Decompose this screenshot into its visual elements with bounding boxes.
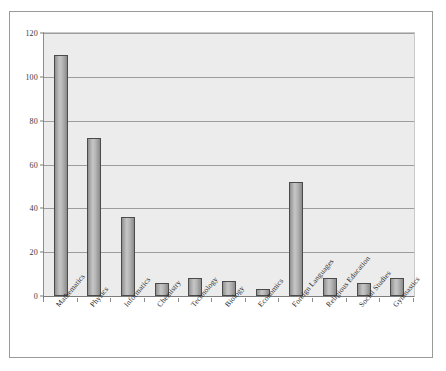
x-tick [77,298,78,302]
x-tick [178,298,179,302]
y-axis-tick-label: 0 [34,292,38,301]
y-axis-tick-label: 100 [25,72,38,81]
y-axis-tick-label: 60 [30,160,38,169]
x-axis-labels: MathematicsPhysicsInformaticsChemistryTe… [43,303,415,359]
bar[interactable] [121,217,135,296]
bar[interactable] [289,182,303,296]
bar-slot [111,33,145,296]
bar-slot [78,33,112,296]
x-tick [278,298,279,302]
x-tick [346,298,347,302]
bars-layer [44,33,414,296]
bar[interactable] [54,55,68,296]
x-tick [312,298,313,302]
figure-frame: 020406080100120 MathematicsPhysicsInform… [9,11,433,358]
y-axis-tick-label: 80 [30,116,38,125]
bar-slot [380,33,414,296]
bar-slot [279,33,313,296]
y-axis-tick-label: 20 [30,248,38,257]
y-axis-tick-label: 120 [25,29,38,38]
bar-slot [212,33,246,296]
y-axis-tick-label: 40 [30,204,38,213]
plot-area: 020406080100120 [43,32,415,297]
bar-slot [44,33,78,296]
bar-slot [145,33,179,296]
x-tick [110,298,111,302]
x-tick [43,298,44,302]
bar-chart: 020406080100120 MathematicsPhysicsInform… [10,12,432,357]
bar-slot [179,33,213,296]
bar[interactable] [87,138,101,296]
x-tick [413,298,414,302]
bar-slot [313,33,347,296]
x-tick [144,298,145,302]
x-tick [379,298,380,302]
bar-slot [246,33,280,296]
x-tick [211,298,212,302]
x-tick [245,298,246,302]
